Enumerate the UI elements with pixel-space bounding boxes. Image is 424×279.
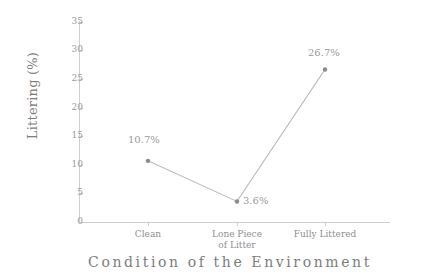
series-markers bbox=[146, 67, 327, 203]
data-point-marker bbox=[235, 199, 239, 203]
point-label-lone-piece: 3.6% bbox=[243, 196, 268, 206]
data-point-marker bbox=[146, 159, 150, 163]
series-line bbox=[148, 69, 325, 201]
data-series-littering bbox=[0, 0, 424, 279]
data-point-marker bbox=[323, 67, 327, 71]
point-label-clean: 10.7% bbox=[128, 135, 160, 145]
point-label-fully-littered: 26.7% bbox=[308, 48, 340, 58]
plot-area: 35 30 25 20 15 10 5 0 Clean bbox=[0, 0, 424, 279]
chart-container: Littering (%) 35 30 25 20 15 10 bbox=[0, 0, 424, 279]
x-axis-title: Condition of the Environment bbox=[60, 254, 400, 270]
